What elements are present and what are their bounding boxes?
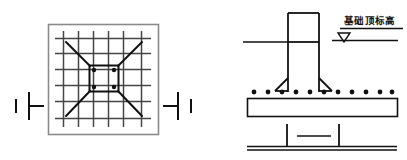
rebar-dot — [350, 90, 355, 95]
rebar-dot — [378, 90, 383, 95]
engineering-drawing-canvas: 基础顶标高 — [0, 0, 407, 160]
section-marker-right — [163, 92, 191, 120]
rebar-dot — [92, 85, 96, 89]
section-column — [288, 13, 319, 92]
plan-grid-vertical — [64, 31, 142, 127]
rebar-dot — [112, 85, 116, 89]
rebar-dot — [308, 90, 313, 95]
rebar-dot — [112, 68, 116, 72]
rebar-dot — [252, 90, 257, 95]
rebar-dot — [294, 90, 299, 95]
rebar-dot — [364, 90, 369, 95]
rebar-dot — [92, 68, 96, 72]
bottom-detail-view — [247, 124, 397, 150]
column-base-flare — [275, 78, 332, 91]
elevation-annotation: 基础顶标高 — [332, 15, 403, 42]
elevation-label-text: 基础顶标高 — [343, 15, 396, 26]
rebar-dot — [280, 90, 285, 95]
footing-slab — [248, 99, 398, 117]
section-marker-left — [16, 92, 44, 120]
rebar-dot — [390, 90, 395, 95]
rebar-dot — [266, 90, 271, 95]
plan-grid-horizontal — [55, 39, 151, 119]
foundation-plan-view — [49, 25, 159, 135]
rebar-dot — [336, 90, 341, 95]
drawing-svg-root: 基础顶标高 — [0, 0, 407, 160]
section-rebar-dots — [252, 90, 395, 95]
rebar-dot — [322, 90, 327, 95]
